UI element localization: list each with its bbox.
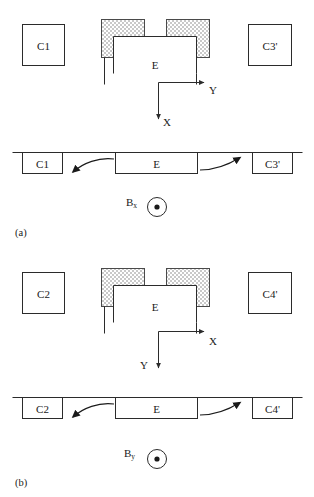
axis-label-vertical-b: Y	[140, 360, 148, 371]
plan-arrow-right-b	[200, 403, 240, 416]
plan-box-left-a	[23, 153, 63, 174]
plan-arrow-left-b	[73, 404, 114, 417]
plan-box-center-b	[116, 398, 198, 419]
panel-b-graphics	[0, 250, 314, 497]
cross-section-left-box-b	[23, 273, 65, 314]
plan-box-left-b	[23, 398, 63, 419]
panel-tag-a: (a)	[15, 228, 27, 239]
cross-section-right-box-a	[249, 25, 292, 66]
field-symbol-b: By	[124, 448, 135, 461]
field-symbol-subscript-b: y	[131, 452, 135, 461]
axis-label-vertical-a: X	[163, 117, 171, 128]
plan-arrow-left-a	[73, 159, 114, 172]
plan-box-center-a	[116, 153, 198, 174]
panel-tag-b: (b)	[15, 478, 27, 489]
field-symbol-a: Bx	[126, 197, 137, 210]
axis-label-horizontal-b: X	[209, 336, 217, 347]
core-body-b	[114, 286, 197, 334]
plan-box-right-a	[253, 153, 293, 174]
axis-label-horizontal-a: Y	[209, 85, 217, 96]
core-body-a	[114, 37, 197, 85]
figure-panel-b: C2 C4' E X Y C2 E C4' By (b)	[0, 250, 314, 497]
field-symbol-subscript-a: x	[133, 201, 137, 210]
plan-box-right-b	[253, 398, 293, 419]
field-dot-a	[154, 204, 159, 209]
cross-section-left-box-a	[23, 25, 65, 66]
plan-arrow-right-a	[200, 158, 240, 171]
cross-section-right-box-b	[249, 273, 292, 314]
figure-panel-a: C1 C3' E Y X C1 E C3' Bx (a)	[0, 0, 314, 250]
panel-a-graphics	[0, 0, 314, 250]
field-dot-b	[154, 456, 159, 461]
